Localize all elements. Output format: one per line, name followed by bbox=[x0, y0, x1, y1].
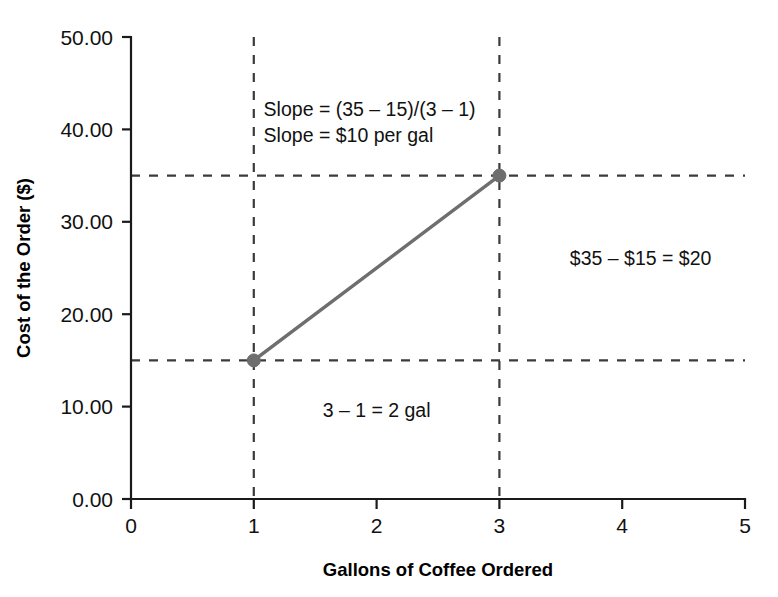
y-tick-label-2: 20.00 bbox=[60, 303, 113, 326]
x-tick-label-0: 0 bbox=[125, 514, 137, 537]
x-axis-title: Gallons of Coffee Ordered bbox=[323, 559, 553, 580]
data-point-3-35 bbox=[493, 169, 506, 182]
y-tick-label-1: 10.00 bbox=[60, 395, 113, 418]
coffee-cost-line-chart: 0.0010.0020.0030.0040.0050.00 012345 Slo… bbox=[0, 0, 778, 597]
x-tick-label-2: 2 bbox=[371, 514, 383, 537]
annotation-slope-formula-line1: Slope = (35 – 15)/(3 – 1) bbox=[264, 98, 476, 120]
chart-background bbox=[0, 0, 778, 597]
chart-figure: 0.0010.0020.0030.0040.0050.00 012345 Slo… bbox=[0, 0, 778, 597]
x-tick-label-3: 3 bbox=[494, 514, 506, 537]
annotation-slope-formula-line2: Slope = $10 per gal bbox=[264, 124, 434, 146]
annotation-rise-label: $35 – $15 = $20 bbox=[570, 247, 712, 269]
y-tick-label-0: 0.00 bbox=[72, 488, 113, 511]
y-tick-label-3: 30.00 bbox=[60, 210, 113, 233]
x-tick-label-4: 4 bbox=[616, 514, 628, 537]
data-point-1-15 bbox=[247, 354, 260, 367]
x-tick-label-1: 1 bbox=[248, 514, 260, 537]
annotation-run-label: 3 – 1 = 2 gal bbox=[323, 399, 431, 421]
y-tick-label-5: 50.00 bbox=[60, 26, 113, 49]
x-tick-label-5: 5 bbox=[739, 514, 751, 537]
y-tick-label-4: 40.00 bbox=[60, 118, 113, 141]
y-axis-title: Cost of the Order ($) bbox=[13, 178, 34, 358]
